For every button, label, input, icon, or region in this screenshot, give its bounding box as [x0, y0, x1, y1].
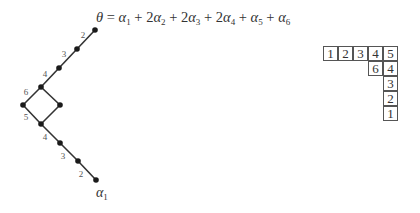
diagram-edge	[41, 87, 60, 105]
alpha1-text: α1	[96, 185, 108, 202]
tableau-cell: 5	[383, 46, 398, 61]
diagram-edge	[77, 30, 95, 49]
edge-label: 4	[43, 132, 48, 142]
diagram-node	[92, 27, 98, 33]
tableau-cell: 3	[383, 76, 398, 91]
diagram-nodes	[20, 27, 99, 183]
tableau-cell: 4	[368, 46, 383, 61]
alpha1-label: α1	[96, 185, 108, 202]
edge-label: 2	[81, 30, 86, 40]
diagram-node	[74, 46, 80, 52]
diagram-node	[57, 102, 63, 108]
edge-label: 5	[24, 112, 29, 122]
diagram-node	[38, 121, 44, 127]
tableau-cell: 2	[338, 46, 353, 61]
edge-label: 2	[79, 169, 84, 179]
diagram-node	[38, 84, 44, 90]
tableau-cell: 2	[383, 91, 398, 106]
tableau-cell: 3	[353, 46, 368, 61]
diagram-node	[20, 102, 26, 108]
hasse-diagram: 23465432 α1	[0, 0, 420, 213]
tableau-cell: 1	[383, 106, 398, 121]
edge-label: 3	[62, 49, 67, 59]
diagram-edge	[41, 105, 60, 124]
diagram-node	[75, 158, 81, 164]
edge-label: 4	[43, 69, 48, 79]
tableau-cell: 1	[323, 46, 338, 61]
edge-label: 3	[61, 151, 66, 161]
diagram-node	[93, 177, 99, 183]
edge-label: 6	[24, 87, 29, 97]
tableau-cell: 4	[383, 61, 398, 76]
diagram-node	[56, 65, 62, 71]
diagram-edge-labels: 23465432	[24, 30, 86, 179]
tableau-cell: 6	[368, 61, 383, 76]
diagram-node	[57, 140, 63, 146]
